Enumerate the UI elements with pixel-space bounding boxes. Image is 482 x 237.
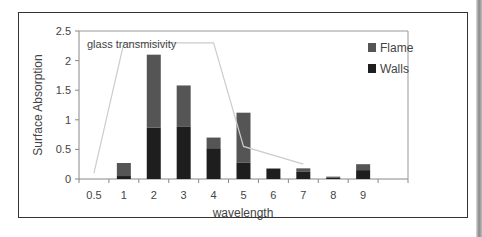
bar-segment-walls: [326, 178, 340, 179]
y-axis-label: Surface Absorption: [31, 54, 45, 155]
annotation-glass-transmisivity: glass transmisivity: [87, 38, 177, 50]
x-tick-label: 2: [151, 189, 157, 201]
legend-swatch-flame: [368, 43, 376, 52]
bar-segment-walls: [266, 169, 280, 179]
bar-segment-walls: [177, 127, 191, 179]
y-tick-label: 1.5: [56, 84, 71, 96]
bar-segment-walls: [237, 162, 251, 179]
bar-segment-flame: [237, 113, 251, 163]
x-tick-label: 3: [181, 189, 187, 201]
x-tick-label: 4: [211, 189, 217, 201]
y-tick-label: 0.5: [56, 143, 71, 155]
bar-segment-walls: [296, 172, 310, 179]
bar-segment-flame: [356, 164, 370, 170]
bars: [117, 55, 370, 179]
bar-segment-flame: [296, 168, 310, 172]
y-tick-label: 2: [65, 55, 71, 67]
axes: 00.511.522.50.5123456789: [56, 25, 408, 201]
legend-swatch-walls: [368, 64, 376, 73]
x-tick-label: 1: [121, 189, 127, 201]
x-tick-label: 9: [360, 189, 366, 201]
bar-segment-flame: [147, 55, 161, 128]
chart-svg: 00.511.522.50.5123456789 glass transmisi…: [0, 0, 482, 237]
legend-label-flame: Flame: [380, 41, 414, 55]
bar-segment-walls: [147, 127, 161, 179]
x-tick-label: 6: [270, 189, 276, 201]
x-tick-label: 0.5: [86, 189, 101, 201]
x-axis-label: wavelength: [212, 206, 274, 220]
legend: Flame Walls: [368, 41, 414, 76]
bar-segment-flame: [177, 85, 191, 126]
bar-segment-flame: [207, 138, 221, 149]
x-tick-label: 5: [240, 189, 246, 201]
glass-transmissivity-line: [94, 43, 303, 173]
y-tick-label: 1: [65, 114, 71, 126]
y-tick-label: 2.5: [56, 25, 71, 37]
x-tick-label: 7: [300, 189, 306, 201]
bar-segment-walls: [207, 148, 221, 179]
bar-segment-walls: [356, 170, 370, 179]
bar-segment-flame: [326, 177, 340, 178]
x-tick-label: 8: [330, 189, 336, 201]
bar-segment-walls: [117, 176, 131, 179]
bar-segment-flame: [266, 168, 280, 169]
y-tick-label: 0: [65, 173, 71, 185]
legend-label-walls: Walls: [380, 62, 409, 76]
bar-segment-flame: [117, 163, 131, 176]
